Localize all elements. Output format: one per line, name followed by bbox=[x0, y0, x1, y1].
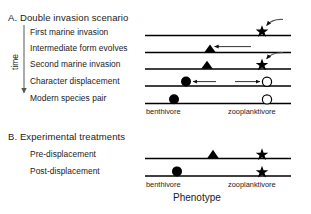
panel-a-axis-lines bbox=[145, 36, 291, 104]
marker-open-circle-row-5 bbox=[262, 95, 271, 104]
marker-filled-circle-row-4 bbox=[181, 77, 191, 87]
marker-triangle-pre-displacement bbox=[207, 150, 219, 158]
marker-triangle-row-2 bbox=[204, 45, 215, 53]
figure-root: A. Double invasion scenario time First m… bbox=[0, 0, 311, 214]
marker-filled-circle-post-displacement bbox=[172, 166, 182, 176]
marker-open-circle-row-4 bbox=[262, 77, 271, 86]
invasion-arrow-row-1 bbox=[267, 19, 284, 25]
marker-filled-circle-row-5 bbox=[169, 94, 179, 104]
panel-b-axis-lines bbox=[145, 159, 291, 177]
invasion-arrow-row-3 bbox=[267, 53, 284, 59]
figure-graphics-overlay bbox=[0, 0, 311, 214]
marker-triangle-row-3 bbox=[201, 61, 213, 69]
